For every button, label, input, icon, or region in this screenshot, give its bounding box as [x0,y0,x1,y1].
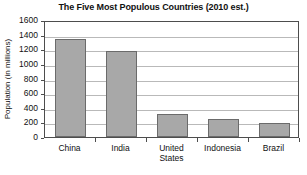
y-axis-tick-label: 800 [24,74,38,84]
y-axis-title-container: Population (in millions) [0,18,14,140]
y-axis-tick-label: 400 [24,103,38,113]
gridline [45,37,298,38]
y-axis-title: Population (in millions) [3,39,12,119]
plot-area [44,21,299,138]
y-axis-tick-label: 600 [24,88,38,98]
x-axis-tick-mark [299,138,300,142]
bar [259,123,290,137]
y-axis-tick-mark [41,138,44,139]
bar-chart-figure: The Five Most Populous Countries (2010 e… [0,0,307,175]
y-axis-tick-label: 1000 [19,59,38,69]
chart-title: The Five Most Populous Countries (2010 e… [0,2,307,12]
x-axis-tick-label: Brazil [248,143,299,153]
x-axis-tick-label: United States [146,143,197,163]
x-axis-tick-label: China [44,143,95,153]
y-axis-tick-label: 0 [33,132,38,142]
x-axis-tick-label: Indonesia [197,143,248,153]
y-axis-tick-label: 1200 [19,44,38,54]
x-axis-tick-mark [248,138,249,142]
bar [157,114,188,137]
bar [208,119,239,137]
bar [55,39,86,137]
y-axis-tick-label: 200 [24,117,38,127]
y-axis-tick-label: 1600 [19,15,38,25]
x-axis-tick-label: India [95,143,146,153]
x-axis-tick-mark [95,138,96,142]
x-axis-tick-mark [197,138,198,142]
bar [106,51,137,137]
y-axis-tick-label: 1400 [19,30,38,40]
x-axis-tick-mark [146,138,147,142]
